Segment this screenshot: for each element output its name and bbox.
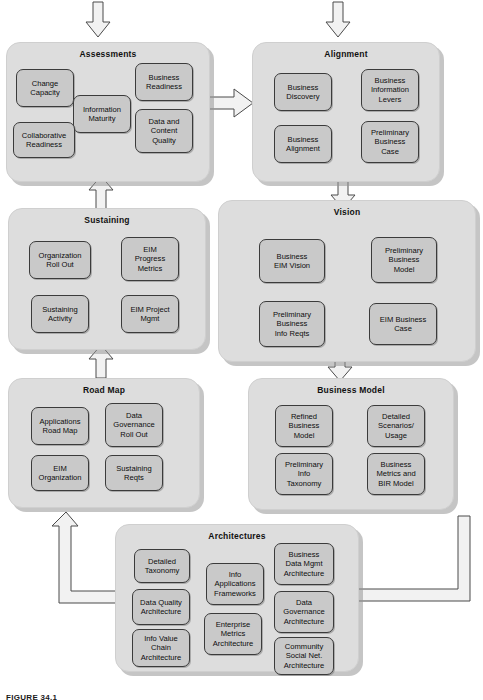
node-business-alignment[interactable]: BusinessAlignment: [274, 125, 332, 163]
panel-title-assessments: Assessments: [7, 49, 209, 59]
node-detailed-taxonomy[interactable]: DetailedTaxonomy: [134, 549, 190, 583]
node-business-eim-vision[interactable]: BusinessEIM Vision: [259, 239, 325, 283]
panel-roadmap[interactable]: Road Map ApplicationsRoad Map DataGovern…: [8, 378, 200, 508]
arrow-into-assessments: [85, 2, 111, 38]
panel-title-business-model: Business Model: [249, 385, 453, 395]
node-preliminary-business-info-reqts[interactable]: PreliminaryBusinessInfo Reqts: [259, 301, 325, 347]
node-sustaining-activity[interactable]: SustainingActivity: [31, 295, 89, 333]
panel-vision[interactable]: Vision BusinessEIM Vision PreliminaryBus…: [218, 200, 476, 362]
node-change-capacity[interactable]: ChangeCapacity: [16, 69, 74, 107]
node-enterprise-metrics-architecture[interactable]: EnterpriseMetricsArchitecture: [204, 613, 262, 655]
node-business-metrics-and-bir-model[interactable]: BusinessMetrics andBIR Model: [367, 453, 425, 495]
panel-business-model[interactable]: Business Model RefinedBusinessModel Deta…: [248, 378, 454, 510]
node-information-maturity[interactable]: InformationMaturity: [73, 95, 131, 133]
node-data-and-content-quality[interactable]: Data andContentQuality: [135, 109, 193, 153]
node-data-governance-architecture[interactable]: DataGovernanceArchitecture: [274, 591, 334, 633]
panel-alignment[interactable]: Alignment BusinessDiscovery BusinessInfo…: [252, 42, 440, 182]
figure-diagram: Assessments ChangeCapacity BusinessReadi…: [0, 0, 483, 700]
node-collaborative-readiness[interactable]: CollaborativeReadiness: [13, 122, 75, 158]
arrow-roadmap-to-sustaining: [88, 345, 114, 379]
node-eim-progress-metrics[interactable]: EIMProgressMetrics: [121, 237, 179, 281]
panel-title-roadmap: Road Map: [9, 385, 199, 395]
node-info-value-chain-architecture[interactable]: Info ValueChainArchitecture: [132, 629, 190, 667]
node-data-quality-architecture[interactable]: Data QualityArchitecture: [132, 589, 190, 625]
panel-title-alignment: Alignment: [253, 49, 439, 59]
arrow-into-alignment: [325, 2, 351, 38]
panel-assessments[interactable]: Assessments ChangeCapacity BusinessReadi…: [6, 42, 210, 182]
node-organization-roll-out[interactable]: OrganizationRoll Out: [29, 241, 91, 279]
panel-title-sustaining: Sustaining: [9, 215, 205, 225]
node-business-readiness[interactable]: BusinessReadiness: [135, 63, 193, 101]
node-business-data-mgmt-architecture[interactable]: BusinessData MgmtArchitecture: [274, 543, 334, 585]
node-preliminary-business-case[interactable]: PreliminaryBusinessCase: [361, 121, 419, 163]
node-eim-project-mgmt[interactable]: EIM ProjectMgmt: [121, 295, 179, 333]
panel-title-architectures: Architectures: [116, 531, 358, 541]
node-eim-organization[interactable]: EIMOrganization: [31, 455, 89, 491]
panel-sustaining[interactable]: Sustaining OrganizationRoll Out EIMProgr…: [8, 208, 206, 350]
node-business-discovery[interactable]: BusinessDiscovery: [274, 73, 332, 111]
node-data-governance-roll-out[interactable]: DataGovernanceRoll Out: [105, 403, 163, 447]
node-preliminary-business-model[interactable]: PreliminaryBusinessModel: [371, 237, 437, 283]
node-detailed-scenarios-usage[interactable]: DetailedScenarios/Usage: [367, 405, 425, 447]
figure-caption: FIGURE 34.1: [6, 693, 57, 700]
node-info-applications-frameworks[interactable]: InfoApplicationsFrameworks: [206, 563, 264, 605]
node-applications-road-map[interactable]: ApplicationsRoad Map: [31, 407, 89, 445]
node-community-social-net-architecture[interactable]: CommunitySocial Net.Architecture: [274, 637, 334, 675]
node-eim-business-case[interactable]: EIM BusinessCase: [369, 303, 437, 345]
node-sustaining-reqts[interactable]: SustainingReqts: [105, 455, 163, 491]
node-refined-business-model[interactable]: RefinedBusinessModel: [275, 405, 333, 447]
node-preliminary-info-taxonomy[interactable]: PreliminaryInfoTaxonomy: [275, 453, 333, 495]
node-business-information-levers[interactable]: BusinessInformationLevers: [361, 69, 419, 111]
panel-architectures[interactable]: Architectures DetailedTaxonomy InfoAppli…: [115, 524, 359, 672]
panel-title-vision: Vision: [219, 207, 475, 217]
